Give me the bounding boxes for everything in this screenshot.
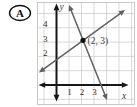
figure-canvas: A [0,0,137,107]
x-axis-left-arrow-icon [39,82,46,88]
x-tick-3: 3 [92,87,97,97]
x-axis-right-arrow-icon [122,82,129,88]
y-tick-2: 2 [43,48,48,58]
intersection-point-label: (2, 3) [88,36,109,47]
y-tick-4: 4 [43,19,48,29]
x-axis-label: x [121,91,127,101]
y-axis-label: y [59,2,65,12]
intersection-point [80,38,85,43]
falling-line [71,9,106,96]
x-tick-1: 1 [67,87,72,97]
y-axis-down-arrow-icon [54,95,60,102]
rising-line-left-arrow-icon [39,67,46,73]
grid [38,3,135,105]
choice-badge: A [10,6,31,21]
answer-choice-graph-figure: A [0,0,137,107]
y-tick-3: 3 [43,34,48,44]
grid-panel-border [38,3,135,105]
choice-badge-letter: A [16,7,24,19]
x-tick-2: 2 [80,87,85,97]
